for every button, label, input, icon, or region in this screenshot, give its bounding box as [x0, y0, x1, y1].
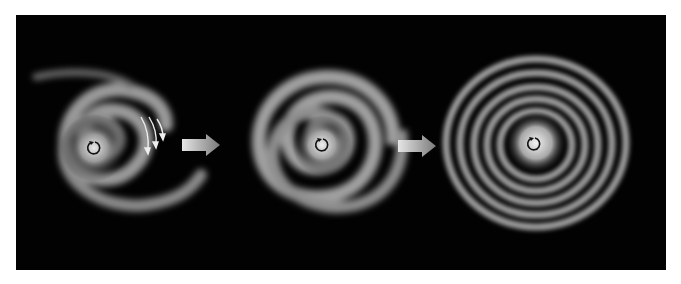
motion-arrows-icon: [139, 115, 167, 157]
rotation-icon: [526, 136, 542, 152]
transition-arrow-icon: [182, 134, 220, 156]
rotation-icon: [86, 140, 102, 156]
galaxy-stage-2: [221, 15, 421, 270]
figure-panel: [16, 15, 666, 270]
transition-arrow-icon: [398, 135, 436, 157]
galaxy-stage-3: [436, 15, 666, 270]
rotation-icon: [314, 137, 330, 153]
